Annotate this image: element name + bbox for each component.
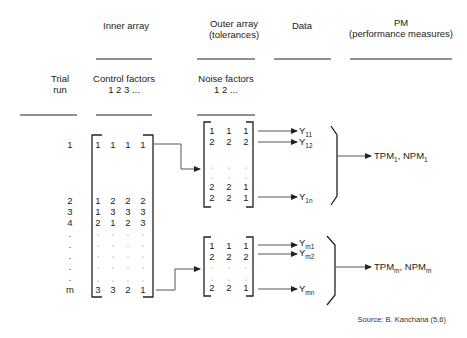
svg-text:.: .: [69, 251, 72, 261]
svg-text:3: 3: [125, 206, 130, 217]
svg-text:1: 1: [140, 139, 145, 150]
label-control-factors: Control factors: [93, 73, 155, 84]
svg-text:3: 3: [95, 284, 100, 295]
svg-text:1: 1: [226, 125, 231, 136]
trial-run-labels: 1 2 3 4 . . . . . m: [66, 139, 74, 295]
svg-text:3: 3: [110, 284, 115, 295]
label-noise-factors: Noise factors: [198, 73, 254, 84]
label-noise-factor-indices: 1 2 ...: [214, 84, 238, 95]
svg-text:2: 2: [125, 284, 130, 295]
svg-text:1: 1: [243, 125, 248, 136]
group-brace-m: [327, 236, 335, 305]
header-pm: PM: [394, 17, 408, 28]
svg-text:2: 2: [226, 251, 231, 262]
outer-array-matrix-m: 1 1 1 2 2 2 2 2 1: [204, 237, 253, 296]
label-trial: Trial: [51, 73, 69, 84]
svg-text:2: 2: [209, 136, 214, 147]
svg-text:m: m: [66, 284, 74, 295]
connector-rowm-to-outerm: [156, 269, 200, 290]
svg-text:1: 1: [110, 217, 115, 228]
svg-text:2: 2: [243, 251, 248, 262]
svg-text:3: 3: [110, 206, 115, 217]
header-pm-sub: (performance measures): [349, 28, 453, 39]
svg-text:1: 1: [140, 284, 145, 295]
svg-text:3: 3: [140, 217, 145, 228]
svg-text:2: 2: [110, 195, 115, 206]
svg-text:1: 1: [209, 240, 214, 251]
header-inner-array: Inner array: [103, 20, 149, 31]
svg-text:.: .: [69, 229, 72, 239]
pm-result-1: TPM1, NPM1: [374, 150, 428, 163]
svg-text:2: 2: [125, 217, 130, 228]
header-outer-array-sub: (tolerances): [209, 29, 259, 40]
svg-text:2: 2: [209, 282, 214, 293]
data-ymn: Ymn: [299, 283, 315, 296]
source-caption: Source: B. Kanchana (5,6): [358, 315, 447, 324]
svg-text:2: 2: [209, 251, 214, 262]
svg-text:1: 1: [125, 139, 130, 150]
svg-text:1: 1: [243, 192, 248, 203]
svg-text:1: 1: [95, 139, 100, 150]
svg-text:1: 1: [95, 195, 100, 206]
svg-text:2: 2: [226, 282, 231, 293]
header-data: Data: [292, 20, 313, 31]
svg-text:1: 1: [243, 181, 248, 192]
outer-array-matrix-1: 1 1 1 2 2 2 2 2 1 2 2 1: [204, 122, 253, 207]
svg-text:3: 3: [140, 206, 145, 217]
svg-text:1: 1: [226, 240, 231, 251]
svg-text:2: 2: [243, 136, 248, 147]
svg-text:2: 2: [95, 217, 100, 228]
svg-text:1: 1: [209, 125, 214, 136]
svg-text:2: 2: [125, 195, 130, 206]
taguchi-robust-design-diagram: Inner array Outer array (tolerances) Dat…: [0, 0, 467, 338]
svg-text:2: 2: [226, 181, 231, 192]
svg-text:1: 1: [67, 139, 72, 150]
label-run: run: [53, 84, 67, 95]
svg-text:1: 1: [110, 139, 115, 150]
svg-text:2: 2: [226, 192, 231, 203]
svg-text:2: 2: [209, 192, 214, 203]
pm-result-m: TPMm, NPMm: [374, 261, 431, 274]
svg-text:2: 2: [67, 195, 72, 206]
svg-text:1: 1: [243, 240, 248, 251]
header-outer-array: Outer array: [210, 18, 258, 29]
svg-text:2: 2: [226, 136, 231, 147]
data-y1n: Y1n: [299, 191, 313, 204]
svg-text:1: 1: [243, 282, 248, 293]
svg-text:2: 2: [140, 195, 145, 206]
svg-text:.: .: [69, 273, 72, 283]
inner-array-matrix: 1 1 1 1 1 2 2 2 1 3 3 3 2 1 2 3 3 3 2 1: [92, 135, 153, 297]
svg-text:4: 4: [67, 217, 72, 228]
label-control-factor-indices: 1 2 3 ...: [108, 84, 140, 95]
svg-text:1: 1: [95, 206, 100, 217]
svg-text:3: 3: [67, 206, 72, 217]
group-brace-1: [331, 126, 337, 205]
svg-text:2: 2: [209, 181, 214, 192]
connector-row1-to-outer1: [153, 144, 200, 169]
svg-text:.: .: [69, 240, 72, 250]
svg-text:.: .: [69, 262, 72, 272]
data-y12: Y12: [299, 136, 313, 149]
